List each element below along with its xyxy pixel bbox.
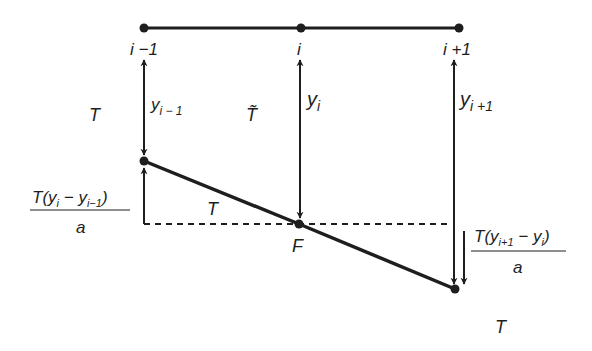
label-F: F	[292, 236, 304, 256]
label-y-i: yi	[305, 88, 321, 114]
label-y-i+1: yi +1	[458, 88, 493, 114]
node-i-1	[140, 157, 149, 166]
force-left-denominator: a	[76, 218, 85, 237]
top-node-i	[297, 24, 306, 33]
force-left-numerator: T(yi − yi−1)	[32, 188, 108, 209]
label-i+1: i +1	[443, 40, 471, 59]
label-y-i-1: yi − 1	[150, 95, 183, 118]
tension-top-middle: T̃	[246, 104, 259, 125]
top-node-i-1	[140, 24, 149, 33]
tension-bottom-right: T	[495, 317, 508, 337]
force-right-denominator: a	[513, 258, 522, 277]
tension-left: T	[89, 105, 102, 125]
top-node-i+1	[455, 24, 464, 33]
tension-segment: T	[207, 199, 220, 219]
label-i: i	[297, 40, 302, 59]
node-i+1	[451, 285, 460, 294]
string-force-diagram: i −1 i i +1 yi − 1 yi yi +1 T T̃ T F T(y…	[0, 0, 592, 351]
string-segment-right	[299, 224, 455, 289]
force-right-numerator: T(yi+1 − yi)	[474, 227, 550, 248]
label-i-1: i −1	[130, 40, 158, 59]
string-segment-left	[144, 161, 299, 224]
